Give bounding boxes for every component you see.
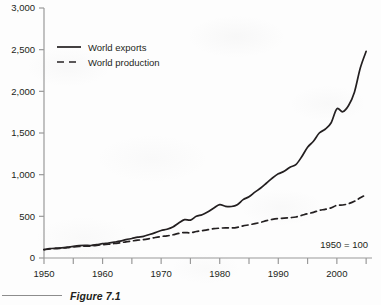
x-axis-ticks xyxy=(44,258,366,264)
series-line-world-exports xyxy=(44,51,366,249)
chart-legend: World exports World production xyxy=(57,42,160,68)
y-axis-tick-label: 2,000 xyxy=(11,86,35,97)
line-chart: 05001,0001,5002,0002,5003,000 1950196019… xyxy=(0,0,381,305)
y-axis-tick-label: 3,000 xyxy=(11,2,35,13)
x-axis-tick-label: 2000 xyxy=(326,268,347,279)
x-axis-tick-label: 1950 xyxy=(33,268,54,279)
y-axis-tick-label: 1,000 xyxy=(11,169,35,180)
y-axis-tick-label: 500 xyxy=(19,211,35,222)
legend-label-world-production: World production xyxy=(88,57,160,68)
caption-rule xyxy=(2,295,62,296)
y-axis-ticks xyxy=(39,8,44,258)
series-line-world-production xyxy=(44,195,366,250)
y-axis-tick-label: 1,500 xyxy=(11,127,35,138)
y-axis-tick-label: 0 xyxy=(30,252,35,263)
figure-caption: Figure 7.1 xyxy=(0,286,381,305)
figure-7-1: 05001,0001,5002,0002,5003,000 1950196019… xyxy=(0,0,381,305)
y-axis-tick-labels: 05001,0001,5002,0002,5003,000 xyxy=(11,2,35,263)
x-axis-tick-label: 1990 xyxy=(268,268,289,279)
x-axis-tick-labels: 195019601970198019902000 xyxy=(33,268,347,279)
caption-label: Figure 7.1 xyxy=(70,290,121,302)
legend-label-world-exports: World exports xyxy=(88,42,147,53)
base-year-note: 1950 = 100 xyxy=(320,239,368,250)
x-axis-tick-label: 1980 xyxy=(209,268,230,279)
x-axis-tick-label: 1970 xyxy=(151,268,172,279)
y-axis-tick-label: 2,500 xyxy=(11,44,35,55)
x-axis-tick-label: 1960 xyxy=(92,268,113,279)
